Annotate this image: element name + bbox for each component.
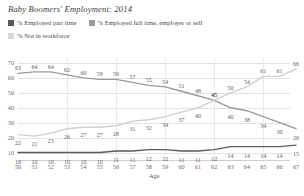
data-label-s2-67: 15: [289, 151, 303, 157]
legend-swatch-not-in-workforce: [8, 33, 14, 39]
x-tick-55: 55: [92, 163, 108, 170]
data-label-s2-59: 12: [158, 156, 172, 162]
line-series-2: [18, 145, 296, 152]
y-tick-10: 10: [1, 149, 14, 156]
data-label-s0-56: 59: [109, 71, 123, 77]
x-tick-61: 61: [190, 163, 206, 170]
data-label-s1-64: 54: [240, 79, 254, 85]
data-label-s1-66: 61: [273, 68, 287, 74]
legend-row-2: % Not in workforce: [8, 30, 298, 41]
data-label-s1-63: 50: [224, 85, 238, 91]
data-label-s1-62: 45: [207, 92, 221, 98]
x-tick-67: 67: [288, 163, 304, 170]
x-tick-52: 52: [43, 163, 59, 170]
data-label-s2-62: 12: [207, 156, 221, 162]
y-tick-40: 40: [1, 104, 14, 111]
data-label-s1-61: 40: [191, 113, 205, 119]
x-tick-60: 60: [174, 163, 190, 170]
legend-item-full-time[interactable]: % Employed full time, employer or self: [89, 19, 203, 26]
x-tick-63: 63: [223, 163, 239, 170]
x-tick-64: 64: [239, 163, 255, 170]
data-label-s0-65: 34: [256, 123, 270, 129]
data-label-s0-63: 40: [224, 114, 238, 120]
legend-label-full-time: % Employed full time, employer or self: [98, 19, 203, 26]
data-label-s1-55: 27: [93, 132, 107, 138]
data-label-s1-67: 66: [289, 61, 303, 67]
data-label-s0-52: 64: [44, 64, 58, 70]
data-label-s1-51: 21: [27, 141, 41, 147]
data-label-s1-58: 32: [142, 125, 156, 131]
x-tick-66: 66: [272, 163, 288, 170]
x-tick-51: 51: [26, 163, 42, 170]
gridline-y-30: [18, 123, 290, 124]
x-tick-62: 62: [206, 163, 222, 170]
data-label-s0-50: 63: [11, 65, 25, 71]
x-tick-50: 50: [10, 163, 26, 170]
gridline-y-50: [18, 93, 290, 94]
data-label-s1-52: 23: [44, 138, 58, 144]
line-series-1: [18, 69, 296, 136]
gridline-y-20: [18, 138, 290, 139]
data-label-s0-61: 48: [191, 88, 205, 94]
data-label-s0-57: 57: [126, 74, 140, 80]
data-label-s1-53: 26: [60, 134, 74, 140]
legend-row-1: % Employed part time % Employed full tim…: [8, 17, 298, 28]
x-tick-56: 56: [108, 163, 124, 170]
legend-label-part-time: % Employed part time: [17, 19, 77, 26]
y-tick-30: 30: [1, 119, 14, 126]
data-label-s0-59: 54: [158, 79, 172, 85]
data-label-s0-60: 51: [175, 83, 189, 89]
legend-label-not-in-workforce: % Not in workforce: [17, 32, 70, 39]
legend-item-not-in-workforce[interactable]: % Not in workforce: [8, 32, 70, 39]
data-label-s2-64: 14: [240, 153, 254, 159]
x-tick-54: 54: [75, 163, 91, 170]
line-series-0: [18, 72, 296, 129]
data-label-s1-65: 61: [256, 68, 270, 74]
x-axis-title: Age: [149, 172, 160, 179]
y-tick-50: 50: [1, 89, 14, 96]
data-label-s0-67: 26: [289, 135, 303, 141]
data-label-s0-53: 62: [60, 67, 74, 73]
legend-swatch-full-time: [89, 20, 95, 26]
gridline-x-62: [214, 58, 215, 162]
data-label-s1-57: 31: [126, 126, 140, 132]
chart-root: Baby Boomers' Employment: 2014 % Employe…: [0, 0, 304, 196]
y-tick-60: 60: [1, 74, 14, 81]
data-label-s0-58: 55: [142, 77, 156, 83]
data-label-s0-51: 64: [27, 64, 41, 70]
data-label-s0-54: 60: [76, 70, 90, 76]
x-tick-65: 65: [255, 163, 271, 170]
legend-item-part-time[interactable]: % Employed part time: [8, 19, 77, 26]
gridline-x-53: [67, 58, 68, 162]
x-tick-59: 59: [157, 163, 173, 170]
chart-legend: % Employed part time % Employed full tim…: [8, 17, 298, 41]
gridline-x-59: [165, 58, 166, 162]
data-label-s1-50: 22: [11, 140, 25, 146]
data-label-s0-64: 38: [240, 117, 254, 123]
data-label-s2-66: 14: [273, 153, 287, 159]
data-label-s1-60: 37: [175, 117, 189, 123]
gridline-y-40: [18, 108, 290, 109]
data-label-s0-66: 30: [273, 129, 287, 135]
chart-title: Baby Boomers' Employment: 2014: [8, 4, 132, 14]
x-tick-57: 57: [125, 163, 141, 170]
data-label-s1-59: 34: [158, 122, 172, 128]
data-label-s1-56: 28: [109, 131, 123, 137]
data-label-s1-54: 27: [76, 132, 90, 138]
x-tick-58: 58: [141, 163, 157, 170]
data-label-s2-63: 14: [224, 153, 238, 159]
data-label-s2-65: 14: [256, 153, 270, 159]
data-label-s2-58: 12: [142, 156, 156, 162]
data-label-s0-55: 59: [93, 71, 107, 77]
x-tick-53: 53: [59, 163, 75, 170]
legend-swatch-part-time: [8, 20, 14, 26]
gridline-y-70: [18, 63, 290, 64]
